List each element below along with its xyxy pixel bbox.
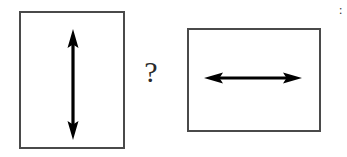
- clipped-edge-glyph: :: [339, 4, 344, 17]
- landscape-frame: [187, 28, 321, 132]
- figure-canvas: ? :: [0, 0, 347, 157]
- comparator-question-mark: ?: [140, 52, 162, 92]
- horizontal-double-arrow-icon: [203, 64, 303, 92]
- vertical-double-arrow-icon: [54, 28, 92, 141]
- portrait-frame: [19, 11, 125, 149]
